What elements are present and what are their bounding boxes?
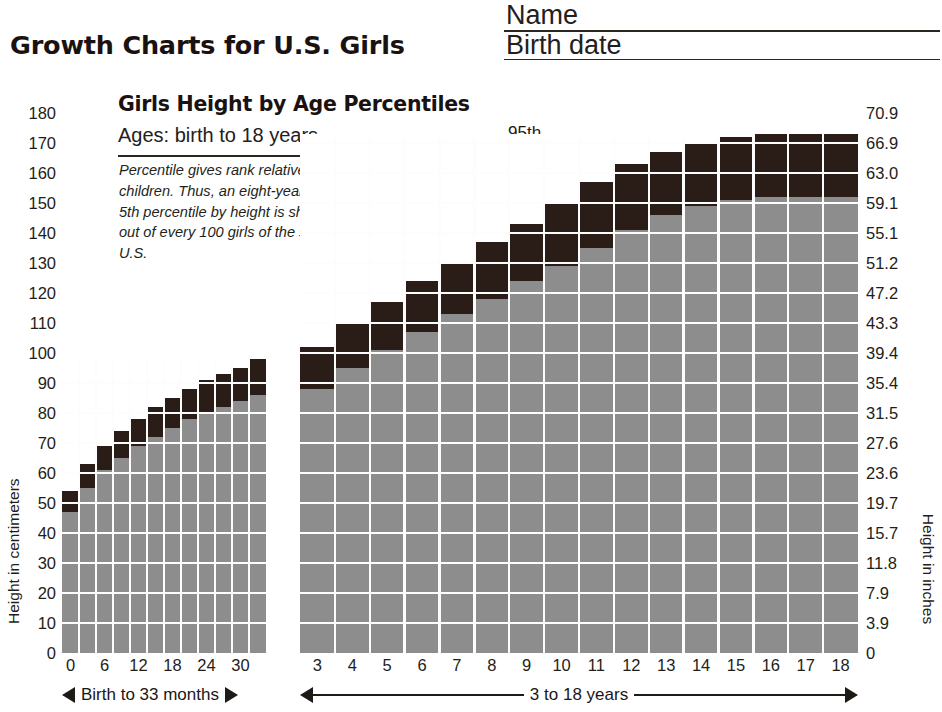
bar-segment-95th bbox=[823, 134, 858, 197]
bar-infant bbox=[198, 380, 215, 653]
y-tick-right: 11.8 bbox=[866, 556, 897, 570]
bar-segment-95th bbox=[440, 263, 475, 314]
bar-segment-95th bbox=[719, 137, 754, 200]
y-axis-right: 70.966.963.059.155.151.247.243.339.435.4… bbox=[862, 0, 922, 712]
bar-child bbox=[300, 347, 335, 653]
bar-child bbox=[509, 224, 544, 653]
bar-infant bbox=[164, 398, 181, 653]
bar-segment-95th bbox=[62, 491, 79, 512]
y-tick-right: 51.2 bbox=[866, 256, 898, 270]
y-tick-right: 35.4 bbox=[866, 376, 898, 390]
bar-segment-95th bbox=[181, 389, 198, 419]
bar-child bbox=[544, 203, 579, 653]
y-tick-left: 50 bbox=[38, 496, 56, 510]
y-tick-left: 180 bbox=[28, 106, 56, 120]
y-tick-left: 80 bbox=[38, 406, 56, 420]
page-title: Growth Charts for U.S. Girls bbox=[10, 30, 405, 60]
bar-child bbox=[753, 134, 788, 653]
bar-infant bbox=[113, 431, 130, 653]
y-tick-left: 120 bbox=[28, 286, 56, 300]
bar-infant bbox=[62, 491, 79, 653]
bar-segment-95th bbox=[614, 164, 649, 230]
bar-segment-95th bbox=[509, 224, 544, 281]
bar-child bbox=[440, 263, 475, 653]
y-tick-left: 150 bbox=[28, 196, 56, 210]
y-tick-left: 140 bbox=[28, 226, 56, 240]
bar-infant bbox=[130, 419, 147, 653]
y-tick-left: 20 bbox=[38, 586, 56, 600]
bar-segment-95th bbox=[96, 446, 113, 470]
y-axis-left-title: Height in centimeters bbox=[5, 484, 23, 624]
chart-title: Girls Height by Age Percentiles bbox=[118, 92, 470, 116]
range-infants-label: Birth to 33 months bbox=[75, 685, 225, 705]
bar-segment-95th bbox=[579, 182, 614, 248]
y-tick-right: 59.1 bbox=[866, 196, 898, 210]
bar-child bbox=[370, 302, 405, 653]
bar-child bbox=[823, 134, 858, 653]
bar-infant bbox=[79, 464, 96, 653]
y-tick-right: 55.1 bbox=[866, 226, 898, 240]
bar-segment-95th bbox=[684, 143, 719, 206]
bar-child bbox=[405, 281, 440, 653]
bar-segment-95th bbox=[232, 368, 249, 401]
x-tick-infants: 30 bbox=[221, 656, 261, 675]
range-infants: Birth to 33 months bbox=[62, 684, 266, 706]
bar-segment-95th bbox=[164, 398, 181, 428]
bar-child bbox=[614, 164, 649, 653]
bar-segment-95th bbox=[335, 323, 370, 368]
y-tick-left: 170 bbox=[28, 136, 56, 150]
bar-child bbox=[474, 242, 509, 653]
y-tick-right: 70.9 bbox=[866, 106, 898, 120]
y-tick-right: 43.3 bbox=[866, 316, 898, 330]
range-line bbox=[313, 694, 524, 696]
bar-infant bbox=[249, 359, 266, 653]
bar-segment-95th bbox=[215, 374, 232, 407]
y-tick-left: 70 bbox=[38, 436, 56, 450]
y-tick-right: 0 bbox=[866, 646, 875, 660]
plot-panel-children bbox=[300, 134, 858, 653]
bar-child bbox=[684, 143, 719, 653]
bar-segment-95th bbox=[79, 464, 96, 488]
bar-segment-95th bbox=[649, 152, 684, 215]
bar-child bbox=[649, 152, 684, 653]
bar-group-children bbox=[300, 134, 858, 653]
bar-infant bbox=[181, 389, 198, 653]
y-tick-right: 31.5 bbox=[866, 406, 898, 420]
bar-segment-95th bbox=[544, 203, 579, 266]
bar-child bbox=[719, 137, 754, 653]
plot-panel-infants bbox=[62, 359, 266, 653]
y-tick-left: 100 bbox=[28, 346, 56, 360]
y-tick-left: 10 bbox=[38, 616, 56, 630]
bar-infant bbox=[215, 374, 232, 653]
bar-child bbox=[335, 323, 370, 653]
bar-segment-95th bbox=[300, 347, 335, 389]
y-tick-left: 60 bbox=[38, 466, 56, 480]
range-line bbox=[634, 694, 845, 696]
bar-child bbox=[579, 182, 614, 653]
y-tick-left: 30 bbox=[38, 556, 56, 570]
y-tick-left: 160 bbox=[28, 166, 56, 180]
bar-segment-95th bbox=[788, 134, 823, 197]
y-tick-right: 47.2 bbox=[866, 286, 898, 300]
arrow-left-icon bbox=[300, 687, 313, 703]
bar-segment-95th bbox=[198, 380, 215, 413]
y-tick-right: 23.6 bbox=[866, 466, 898, 480]
bar-segment-95th bbox=[147, 407, 164, 437]
y-tick-right: 39.4 bbox=[866, 346, 898, 360]
x-tick-children: 18 bbox=[821, 656, 861, 675]
y-tick-right: 63.0 bbox=[866, 166, 898, 180]
bar-group-infants bbox=[62, 359, 266, 653]
arrow-left-icon bbox=[62, 687, 75, 703]
y-tick-left: 40 bbox=[38, 526, 56, 540]
y-tick-right: 19.7 bbox=[866, 496, 898, 510]
bar-infant bbox=[232, 368, 249, 653]
bar-segment-95th bbox=[405, 281, 440, 332]
arrow-right-icon bbox=[845, 687, 858, 703]
range-children-label: 3 to 18 years bbox=[524, 685, 634, 705]
bar-segment-95th bbox=[753, 134, 788, 197]
bar-infant bbox=[96, 446, 113, 653]
bar-segment-95th bbox=[474, 242, 509, 299]
y-tick-right: 7.9 bbox=[866, 586, 889, 600]
range-children: 3 to 18 years bbox=[300, 684, 858, 706]
y-tick-left: 90 bbox=[38, 376, 56, 390]
